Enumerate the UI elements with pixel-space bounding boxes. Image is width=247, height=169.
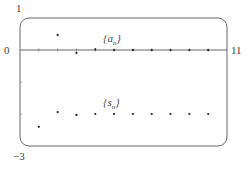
series-label-s: {sn} [103, 97, 120, 111]
point-s-n [151, 113, 153, 115]
y-top-label: 1 [16, 3, 22, 14]
point-s-n [188, 113, 190, 115]
point-a-n [169, 49, 171, 51]
data-points [38, 34, 210, 128]
point-a-n [151, 49, 153, 51]
x-max-label: 11 [231, 45, 242, 56]
sequence-plot [0, 0, 247, 169]
point-s-n [132, 113, 134, 115]
point-a-n [207, 49, 209, 51]
point-s-n [169, 113, 171, 115]
point-a-n [57, 34, 59, 36]
plot-frame [20, 18, 227, 146]
point-s-n [57, 111, 59, 113]
x-origin-label: 0 [4, 45, 10, 56]
y-bottom-label: −3 [13, 151, 25, 162]
point-a-n [94, 48, 96, 50]
point-s-n [94, 113, 96, 115]
point-s-n [113, 113, 115, 115]
point-a-n [132, 49, 134, 51]
point-a-n [75, 52, 77, 54]
point-s-n [75, 114, 77, 116]
point-a-n [113, 49, 115, 51]
series-label-a: {an} [103, 33, 121, 47]
point-s-n [207, 113, 209, 115]
point-a-n [188, 49, 190, 51]
point-s-n [38, 126, 40, 128]
